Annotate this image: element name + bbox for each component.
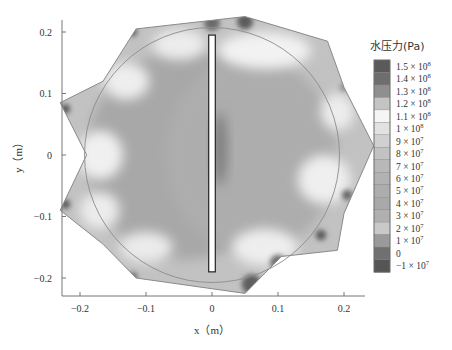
colorbar-cell — [374, 147, 390, 160]
colorbar-label: 1.2 × 108 — [396, 97, 431, 109]
y-tick-label: −0.1 — [34, 211, 52, 222]
pressure-contour-chart: −0.2−0.100.10.2 0.20.10−0.1−0.2 x（m） y（m… — [0, 0, 452, 350]
pressure-hotspot — [128, 272, 137, 281]
y-tick-label: 0 — [47, 150, 52, 161]
colorbar-cell — [374, 122, 390, 135]
colorbar-label: 1.3 × 108 — [396, 85, 431, 97]
x-tick-label: 0.2 — [338, 303, 351, 314]
colorbar-label: 4 × 107 — [396, 197, 424, 209]
field-region-light-left-mid — [77, 130, 123, 179]
pressure-hotspot — [204, 15, 220, 31]
colorbar-label: −1 × 107 — [396, 259, 430, 271]
colorbar-label: 1.5 × 108 — [396, 60, 431, 72]
y-tick-label: 0.2 — [40, 27, 53, 38]
y-tick-label: 0.1 — [40, 88, 53, 99]
colorbar-cell — [374, 235, 390, 248]
pressure-hotspot — [316, 230, 327, 241]
colorbar-cell — [374, 160, 390, 173]
y-tick-label: −0.2 — [34, 273, 52, 284]
field-region-light-bottom-right — [232, 229, 298, 266]
colorbar-title: 水压力(Pa) — [370, 40, 424, 53]
colorbar-label: 6 × 107 — [396, 172, 424, 184]
colorbar-label: 1.4 × 108 — [396, 72, 431, 84]
x-tick-label: −0.1 — [137, 303, 155, 314]
x-tick-label: −0.2 — [71, 303, 89, 314]
colorbar-label: 2 × 107 — [396, 222, 424, 234]
colorbar-cell — [374, 247, 390, 260]
colorbar-label: 7 × 107 — [396, 160, 424, 172]
colorbar-label: 9 × 107 — [396, 135, 424, 147]
colorbar-label: 1 × 107 — [396, 234, 424, 246]
slot-rect — [209, 35, 216, 272]
colorbar-label: 8 × 107 — [396, 147, 424, 159]
colorbar-label: 5 × 107 — [396, 184, 424, 196]
field-region-interior-right — [166, 57, 338, 254]
colorbar-cell — [374, 222, 390, 235]
colorbar-cell — [374, 197, 390, 210]
x-tick-label: 0.1 — [272, 303, 285, 314]
field-region-light-top-left — [153, 29, 206, 60]
pressure-field — [60, 14, 374, 294]
colorbar-label: 1 × 108 — [396, 122, 424, 134]
pressure-hotspot — [237, 14, 253, 30]
x-tick-label: 0 — [210, 303, 215, 314]
colorbar-label: 0 — [396, 249, 401, 259]
colorbar-cell — [374, 110, 390, 123]
colorbar-cell — [374, 72, 390, 85]
field-region-light-bottom-left — [120, 232, 173, 263]
colorbar-cell — [374, 97, 390, 110]
pressure-hotspot — [270, 255, 286, 271]
colorbar-cell — [374, 60, 390, 73]
field-region-light-upper-left — [103, 63, 149, 100]
colorbar-cell — [374, 185, 390, 198]
field-region-light-upper-right — [321, 94, 354, 131]
colorbar-cell — [374, 260, 390, 273]
y-axis-label: y（m） — [12, 137, 24, 173]
colorbar-cell — [374, 135, 390, 148]
x-axis-label: x（m） — [194, 324, 230, 336]
colorbar-cell — [374, 172, 390, 185]
pressure-hotspot — [242, 274, 262, 294]
field-region-light-lower-left — [80, 192, 120, 229]
colorbar: 水压力(Pa) 1.5 × 1081.4 × 1081.3 × 1081.2 ×… — [370, 40, 431, 272]
colorbar-label: 1.1 × 108 — [396, 110, 431, 122]
colorbar-cell — [374, 210, 390, 223]
field-region-light-top-right — [219, 32, 311, 69]
colorbar-cell — [374, 85, 390, 98]
colorbar-label: 3 × 107 — [396, 209, 424, 221]
